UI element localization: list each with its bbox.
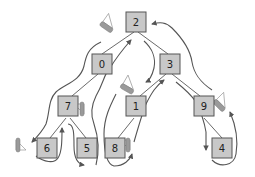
- tree-node-6: 6: [37, 138, 57, 158]
- tree-node-9: 9: [194, 96, 214, 116]
- edge-7-6: [50, 118, 66, 138]
- traversal-arrow: [32, 42, 101, 142]
- node-label: 3: [167, 59, 173, 70]
- node-label: 6: [44, 143, 50, 154]
- edge-3-1: [140, 74, 166, 96]
- tree-node-1: 1: [126, 96, 146, 116]
- sailboat-icon: [212, 92, 233, 113]
- node-label: 7: [65, 101, 71, 112]
- node-label: 1: [133, 101, 139, 112]
- node-label: 8: [112, 143, 118, 154]
- tree-node-4: 4: [212, 138, 232, 158]
- tree-node-5: 5: [77, 138, 97, 158]
- edge-3-9: [172, 74, 200, 96]
- sailboat-icon: [99, 13, 119, 33]
- tree-diagram: 2 0 3 7 1 9 6 5 8 4: [0, 0, 255, 177]
- traversal-paths: [32, 23, 237, 166]
- edge-2-0: [102, 32, 134, 54]
- traversal-arrow: [144, 41, 155, 82]
- tree-node-2: 2: [126, 12, 146, 32]
- edge-1-8: [118, 118, 134, 138]
- node-label: 9: [201, 101, 207, 112]
- edge-9-4: [204, 118, 222, 138]
- sailboat-icon: [120, 75, 140, 95]
- tree-edges: [50, 32, 222, 138]
- tree-node-7: 7: [58, 96, 78, 116]
- edge-0-7: [72, 74, 98, 96]
- node-label: 4: [219, 143, 225, 154]
- sailboat-icon: [16, 138, 26, 152]
- tree-node-8: 8: [105, 138, 125, 158]
- node-label: 0: [99, 59, 105, 70]
- node-label: 2: [133, 17, 139, 28]
- tree-node-0: 0: [92, 54, 112, 74]
- tree-node-3: 3: [160, 54, 180, 74]
- edge-2-3: [138, 32, 168, 54]
- node-label: 5: [84, 143, 90, 154]
